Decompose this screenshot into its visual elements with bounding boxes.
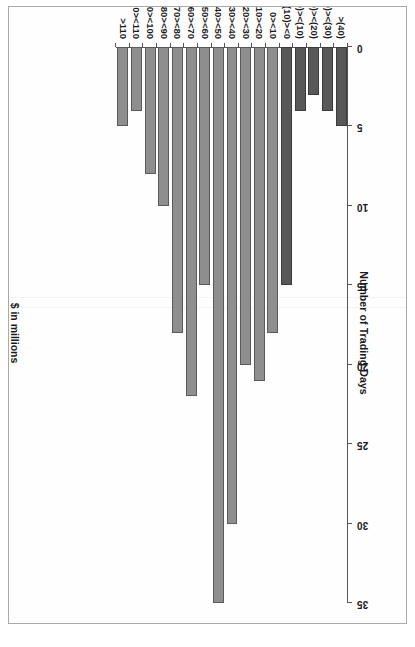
category-axis-tick (251, 43, 252, 47)
bar-20-30[interactable] (240, 47, 251, 365)
category-label: 30><40 (227, 7, 238, 39)
rotated-chart-container: Number of Trading Days $ in millions 051… (9, 7, 407, 624)
value-axis-tick-label: 5 (357, 122, 363, 133)
category-label: 0><10 (267, 12, 278, 39)
category-axis-tick (115, 43, 116, 47)
bar-80-90[interactable] (158, 47, 169, 206)
category-label: 20><30 (240, 7, 251, 39)
category-axis-tick (292, 43, 293, 47)
bar-30-20[interactable] (308, 47, 319, 95)
category-axis-tick (279, 43, 280, 47)
category-axis-tick (156, 43, 157, 47)
bar-30-40[interactable] (227, 47, 238, 524)
category-axis-tick (129, 43, 130, 47)
value-axis-tick: 15 (348, 284, 352, 285)
category-axis-tick (224, 43, 225, 47)
value-axis-tick: 35 (348, 602, 352, 603)
category-axis-tick (142, 43, 143, 47)
value-axis-tick: 10 (348, 205, 352, 206)
value-axis-tick: 30 (348, 523, 352, 524)
category-axis-tick (183, 43, 184, 47)
category-axis-tick (320, 43, 321, 47)
category-label: 80><90 (158, 7, 169, 39)
value-axis-tick-label: 30 (357, 520, 368, 531)
bar-10-0[interactable] (281, 47, 292, 285)
value-axis-tick-label: 15 (357, 281, 368, 292)
category-label: (10)><0 (281, 6, 292, 39)
value-axis-tick: 0 (348, 46, 352, 47)
category-axis-tick (238, 43, 239, 47)
bar-40-50[interactable] (213, 47, 224, 603)
value-axis-tick-label: 20 (357, 361, 368, 372)
value-axis-tick: 5 (348, 125, 352, 126)
bar-chart: Number of Trading Days $ in millions 051… (9, 7, 407, 624)
value-axis-tick-label: 10 (357, 202, 368, 213)
category-axis-tick (211, 43, 212, 47)
bar-0-10[interactable] (268, 47, 279, 333)
bar-20-10[interactable] (295, 47, 306, 111)
bar-40-30[interactable] (322, 47, 333, 111)
category-axis-tick (333, 43, 334, 47)
bar-60-70[interactable] (186, 47, 197, 396)
category-label: 10><20 (254, 7, 265, 39)
value-axis-tick-label: 35 (357, 599, 368, 610)
bar-40[interactable] (336, 47, 347, 126)
plot-area: 05101520253035 >(40)(40)><(30)(30)><(20)… (116, 47, 348, 603)
category-axis-tick (306, 43, 307, 47)
y-axis-title: Number of Trading Days (358, 223, 370, 443)
category-label: 90><100 (145, 6, 156, 39)
category-label: (20)><(10) (295, 6, 306, 39)
bar-70-80[interactable] (172, 47, 183, 333)
bar-10-20[interactable] (254, 47, 265, 381)
bar-50-60[interactable] (199, 47, 210, 285)
value-axis-tick-label: 0 (357, 43, 363, 54)
value-axis-line (347, 47, 348, 603)
category-label: (40)><(30) (322, 6, 333, 39)
value-axis-tick: 20 (348, 364, 352, 365)
category-label: 40><50 (213, 7, 224, 39)
value-axis-tick-label: 25 (357, 440, 368, 451)
category-axis-tick (347, 43, 348, 47)
category-label: 100><110 (131, 6, 142, 39)
category-label: >110 (117, 18, 128, 39)
bar-100-110[interactable] (131, 47, 142, 111)
bar-90-100[interactable] (145, 47, 156, 174)
figure-frame: Number of Trading Days $ in millions 051… (8, 6, 407, 624)
value-axis-tick: 25 (348, 443, 352, 444)
category-label: 60><70 (186, 7, 197, 39)
category-label: 70><80 (172, 7, 183, 39)
x-axis-title: $ in millions (9, 258, 21, 408)
bar-110[interactable] (117, 47, 128, 126)
category-axis-tick (197, 43, 198, 47)
category-label: 50><60 (199, 7, 210, 39)
category-axis-tick (265, 43, 266, 47)
category-axis-tick (170, 43, 171, 47)
category-label: (30)><(20) (308, 6, 319, 39)
category-label: >(40) (336, 17, 347, 39)
